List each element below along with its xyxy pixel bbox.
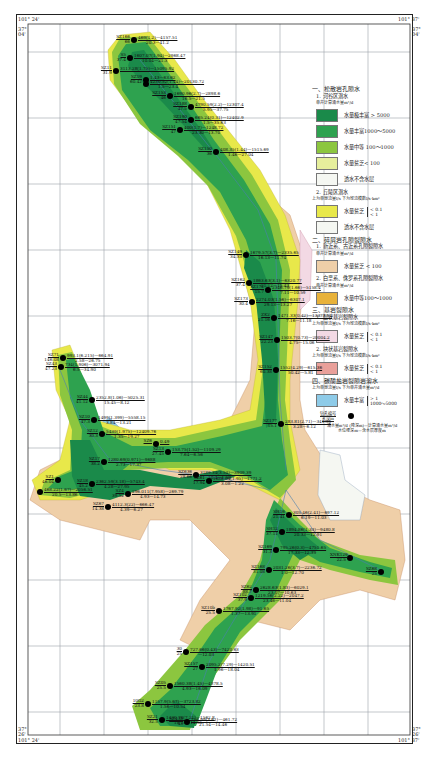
well-marker[interactable] (243, 252, 249, 258)
well-data-label: 408.35(1.44)—1515.691.46—27.04 (220, 147, 269, 157)
well-id-label: SZ1047.3 (74, 414, 90, 424)
coord-bottom-right-lon: 101° 37' (398, 738, 419, 743)
well-marker[interactable] (206, 478, 212, 484)
well-marker[interactable] (145, 701, 151, 707)
legend-s1-1-sub: 单井计算涌水量m³/d (312, 100, 412, 107)
well-marker[interactable] (55, 477, 61, 483)
well-marker[interactable] (266, 567, 272, 573)
well-id-label: SH1237.11 (262, 526, 278, 536)
swatch-clastic-poor (316, 260, 338, 273)
well-id-label: SZ19047.54 (171, 114, 187, 124)
well-id-label: SZ1230.3 (82, 428, 98, 438)
well-id-label: SZ15727 (182, 661, 198, 671)
well-data-label: 4112.3(22)—666.474.39—6.27 (112, 502, 154, 512)
well-data-label: 1886.04(1.95)—1771.23.08—1.22 (213, 476, 262, 486)
legend-s1-1-title: 1. 河谷区潜水 (312, 93, 412, 100)
legend-s2-1-sub: 单井计算涌水量m³/d (312, 251, 412, 258)
well-marker[interactable] (273, 547, 279, 553)
legend-item-carbonate: 水量丰富> 1 1000～5000 (312, 394, 412, 408)
well-marker[interactable] (216, 608, 222, 614)
coord-bottom-left-lat: 37° 26' (18, 727, 27, 737)
well-marker[interactable] (91, 417, 97, 423)
well-data-label: 1894.86(1.33)—9480.820.33—12.91 (286, 527, 335, 537)
well-marker[interactable] (274, 337, 280, 343)
legend-s3-2-title: 2. 块状基岩裂隙水 (312, 346, 412, 353)
legend-item-hill-poor: 水量贫乏< 0.1 < 1 (312, 205, 412, 219)
well-marker[interactable] (167, 683, 173, 689)
well-id-label: SZ6 (136, 438, 152, 443)
well-marker[interactable] (131, 37, 137, 43)
well-data-label: 1471.33(0.42)—13373.117.16—11.18 (278, 313, 332, 323)
well-data-label: 153.75(1.52)—1109.297.64—6.56 (172, 447, 221, 457)
well-data-label: 283.81(2.71)—341.363.28—6.12 (285, 419, 331, 429)
well-marker[interactable] (248, 595, 254, 601)
well-id-label: SZ43b43 (167, 716, 183, 726)
well-marker[interactable] (271, 315, 277, 321)
swatch-very-rich (316, 109, 338, 122)
well-data-label: 665.24(0.31)—12402.91.5—35.63 (195, 115, 244, 125)
well-id-label: SZ17330.4 (232, 296, 248, 306)
well-marker[interactable] (99, 431, 105, 437)
well-marker[interactable] (58, 364, 64, 370)
swatch-non-aquifer (316, 173, 338, 186)
well-marker[interactable] (60, 355, 66, 361)
well-id-label: SZ16237.4 (229, 277, 245, 287)
legend-item-bedrock-band: 水量贫乏< 0.1 < 1 (312, 362, 412, 376)
legend-item-rich: 水量丰富1000～5000 (312, 125, 412, 139)
well-marker[interactable] (188, 104, 194, 110)
well-id-label: SZ1738.2 (84, 456, 100, 466)
coord-bottom-left-lon: 101° 24' (18, 738, 39, 743)
well-marker[interactable] (265, 287, 271, 293)
well-marker[interactable] (113, 68, 119, 74)
well-marker[interactable] (286, 512, 292, 518)
legend-item-clastic-medium: 水量中等100～1000 (312, 291, 412, 305)
well-marker[interactable] (213, 149, 219, 155)
well-marker[interactable] (165, 449, 171, 455)
swatch-rich (316, 125, 338, 138)
well-data-label: 1679.57(3.7)—2335.6516.13—11.74 (250, 250, 299, 260)
well-marker[interactable] (273, 367, 279, 373)
well-data-label: 468.22(1.67)—2056.5120.5—13.86 (44, 487, 93, 497)
well-marker[interactable] (177, 127, 183, 133)
well-marker[interactable] (167, 93, 173, 99)
legend-item-clastic-poor: 水量贫乏 < 100 (312, 259, 412, 273)
well-marker[interactable] (159, 717, 165, 723)
well-marker[interactable] (143, 81, 149, 87)
well-marker[interactable] (125, 491, 131, 497)
legend-s4-sub: 上为单泉流量l/s 下为单井涌水量m³/d (312, 385, 412, 392)
well-data-label: 4790.59(2.2)—12307.45.95—37.75 (195, 102, 244, 112)
legend-item-very-rich: 水量极丰富 > 5000 (312, 109, 412, 123)
legend-s1-2-sub: 上为单泉流量l/s 下为径流模数l/s·km² (312, 196, 412, 203)
well-marker[interactable] (279, 529, 285, 535)
well-marker[interactable] (153, 441, 159, 447)
well-marker[interactable] (183, 649, 189, 655)
well-id-label: SZ4441.12 (72, 394, 88, 404)
legend-item-medium: 水量中等 100～1000 (312, 141, 412, 155)
well-data-label: 1552(4.29)—615.3650.42—5.81 (280, 365, 322, 375)
well-marker[interactable] (127, 55, 133, 61)
well-marker[interactable] (37, 489, 43, 495)
well-id-label: XNK12922.5 (330, 552, 346, 562)
swatch-hill-poor (316, 205, 338, 218)
well-id-label: SZ17215.7 (248, 284, 264, 294)
well-marker[interactable] (188, 117, 194, 123)
well-marker[interactable] (89, 397, 95, 403)
well-marker[interactable] (105, 504, 111, 510)
swatch-medium (316, 141, 338, 154)
legend-s4-title: 四、碳酸盐岩裂隙岩溶水 (312, 378, 412, 385)
swatch-poor (316, 157, 338, 170)
well-marker[interactable] (249, 299, 255, 305)
legend-item-non-aquifer: 透水不含水层 (312, 173, 412, 187)
legend-s2-1-title: 1. 新近系、古近系孔隙裂隙水 (312, 243, 412, 250)
well-data-label: 1157.9(5.67)—3723.821.56—10.54 (152, 699, 201, 709)
well-marker[interactable] (278, 421, 284, 427)
well-marker[interactable] (184, 719, 190, 725)
legend-s2-2-title: 2. 白垩系、侏罗系孔隙裂隙水 (312, 275, 412, 282)
well-data-label: 1219.56(2.22)—2047.223.46—11.04 (255, 593, 304, 603)
well-data-label: 4230.52(1.44)—20130.721.5—23.4 (150, 79, 204, 89)
well-id-label: SZ6117.94 (189, 475, 205, 485)
well-dot-icon (348, 413, 354, 419)
well-marker[interactable] (199, 664, 205, 670)
well-marker[interactable] (101, 459, 107, 465)
well-marker[interactable] (378, 569, 384, 575)
